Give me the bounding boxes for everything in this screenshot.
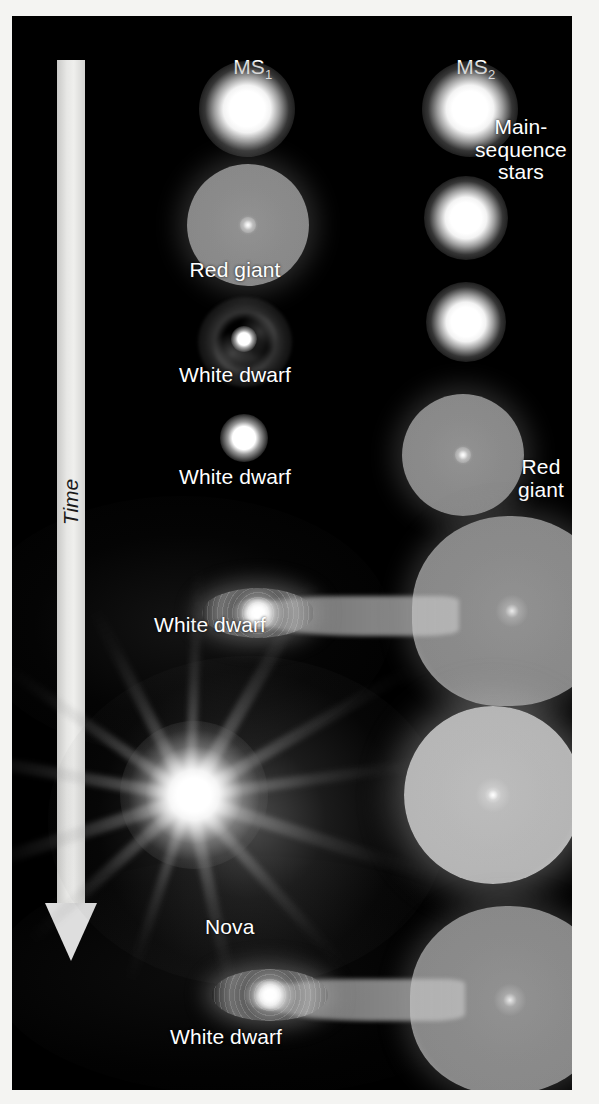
star-ms2-stage3 [426,282,506,362]
sky-panel: Time MS1 MS2 Main- sequence stars Red gi… [12,16,572,1090]
red-giant-core [485,787,501,803]
label-white-dwarf-accreting: White dwarf [154,614,266,636]
star-ms1-stage1 [199,61,295,157]
red-giant-core [240,217,256,233]
label-white-dwarf-final: White dwarf [170,1026,282,1048]
label-white-dwarf-nebula: White dwarf [179,364,291,386]
star-ms2-stage2 [424,176,508,260]
red-giant-core [455,447,471,463]
nova-explosion [120,721,268,869]
label-red-giant-left: Red giant [190,259,281,281]
red-giant-right-stage4 [402,394,524,516]
accretion-disk-stage7 [212,969,328,1021]
white-dwarf-stage3 [231,326,257,352]
label-nova: Nova [205,916,254,938]
red-giant-illuminated-stage6 [404,706,572,884]
label-white-dwarf-alone: White dwarf [179,466,291,488]
nova-evolution-figure: Time MS1 MS2 Main- sequence stars Red gi… [0,0,599,1104]
white-dwarf-stage4 [220,414,268,462]
label-main-sequence-stars: Main- sequence stars [475,116,567,184]
accretion-disk-hotspot [244,980,296,1010]
label-red-giant-right: Red giant [518,456,564,501]
time-axis-label: Time [59,466,83,538]
